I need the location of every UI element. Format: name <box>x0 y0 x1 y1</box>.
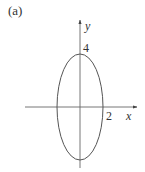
ellipse-figure: (a) y 4 2 x <box>0 0 145 172</box>
x-axis-label: x <box>125 109 132 123</box>
x-intercept-label: 2 <box>106 109 112 123</box>
y-intercept-label: 4 <box>83 41 89 55</box>
plot-area: y 4 2 x <box>0 0 145 172</box>
y-axis-label: y <box>84 19 91 33</box>
